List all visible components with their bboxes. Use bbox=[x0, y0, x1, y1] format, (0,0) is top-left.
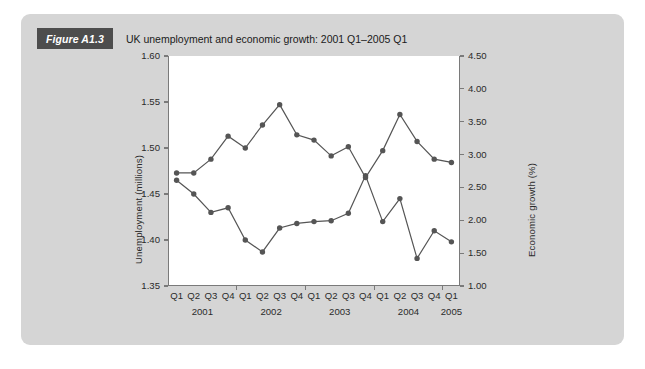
x-axis-year-label: 2001 bbox=[180, 306, 224, 317]
x-axis-quarter-label: Q1 bbox=[438, 290, 464, 301]
data-point bbox=[311, 219, 316, 224]
data-point bbox=[311, 137, 316, 142]
y-axis-right-label: Economic growth (%) bbox=[526, 163, 537, 257]
y-axis-right-tick-label: 3.50 bbox=[468, 116, 502, 127]
y-axis-left-tick-label: 1.40 bbox=[126, 234, 160, 245]
y-axis-left-tick-label: 1.50 bbox=[126, 142, 160, 153]
data-point bbox=[432, 156, 437, 161]
tick-mark bbox=[460, 187, 464, 188]
x-axis-year-label: 2005 bbox=[429, 306, 473, 317]
x-axis-year-label: 2002 bbox=[249, 306, 293, 317]
data-point bbox=[397, 196, 402, 201]
data-point bbox=[260, 249, 265, 254]
y-axis-right-tick-label: 2.50 bbox=[468, 181, 502, 192]
x-axis-year-boundary-tick bbox=[442, 286, 443, 290]
tick-mark bbox=[460, 220, 464, 221]
data-point bbox=[225, 133, 230, 138]
data-point bbox=[414, 256, 419, 261]
data-point bbox=[277, 102, 282, 107]
y-axis-left-tick-label: 1.60 bbox=[126, 50, 160, 61]
data-point bbox=[294, 132, 299, 137]
tick-mark bbox=[164, 285, 168, 286]
chart-plot-area: Unemployment (millions) Economic growth … bbox=[21, 14, 624, 345]
y-axis-right-tick-label: 1.50 bbox=[468, 247, 502, 258]
y-axis-left-tick-label: 1.55 bbox=[126, 96, 160, 107]
data-point bbox=[328, 153, 333, 158]
series-line-0 bbox=[177, 176, 452, 259]
x-axis-year-boundary-tick bbox=[236, 286, 237, 290]
y-axis-right-tick-label: 4.50 bbox=[468, 50, 502, 61]
data-point bbox=[277, 225, 282, 230]
tick-mark bbox=[164, 239, 168, 240]
data-point bbox=[380, 148, 385, 153]
tick-mark bbox=[460, 285, 464, 286]
data-point bbox=[449, 160, 454, 165]
data-point bbox=[363, 175, 368, 180]
data-point bbox=[449, 239, 454, 244]
data-point bbox=[243, 237, 248, 242]
x-axis-year-label: 2004 bbox=[386, 306, 430, 317]
data-point bbox=[174, 178, 179, 183]
data-point bbox=[208, 156, 213, 161]
data-point bbox=[380, 219, 385, 224]
data-point bbox=[174, 170, 179, 175]
tick-mark bbox=[164, 193, 168, 194]
tick-mark bbox=[460, 55, 464, 56]
data-point bbox=[191, 191, 196, 196]
tick-mark bbox=[460, 121, 464, 122]
data-point bbox=[225, 205, 230, 210]
y-axis-right-tick-label: 2.00 bbox=[468, 214, 502, 225]
y-axis-left-label: Unemployment (millions) bbox=[133, 155, 144, 264]
y-axis-right-tick-label: 4.00 bbox=[468, 83, 502, 94]
data-point bbox=[243, 145, 248, 150]
data-point bbox=[328, 218, 333, 223]
x-axis-year-boundary-tick bbox=[305, 286, 306, 290]
y-axis-right-tick-label: 3.00 bbox=[468, 149, 502, 160]
data-point bbox=[397, 112, 402, 117]
tick-mark bbox=[460, 154, 464, 155]
tick-mark bbox=[164, 147, 168, 148]
data-point bbox=[260, 122, 265, 127]
tick-mark bbox=[164, 101, 168, 102]
x-axis-year-boundary-tick bbox=[374, 286, 375, 290]
data-point bbox=[346, 211, 351, 216]
tick-mark bbox=[460, 253, 464, 254]
data-point bbox=[294, 221, 299, 226]
x-axis-year-label: 2003 bbox=[318, 306, 362, 317]
y-axis-left-tick-label: 1.35 bbox=[126, 280, 160, 291]
figure-card: Figure A1.3 UK unemployment and economic… bbox=[21, 14, 624, 345]
y-axis-right-tick-label: 1.00 bbox=[468, 280, 502, 291]
data-point bbox=[414, 139, 419, 144]
data-point bbox=[432, 228, 437, 233]
data-point bbox=[346, 144, 351, 149]
tick-mark bbox=[460, 88, 464, 89]
tick-mark bbox=[164, 55, 168, 56]
data-point bbox=[191, 170, 196, 175]
data-point bbox=[208, 210, 213, 215]
y-axis-left-tick-label: 1.45 bbox=[126, 188, 160, 199]
